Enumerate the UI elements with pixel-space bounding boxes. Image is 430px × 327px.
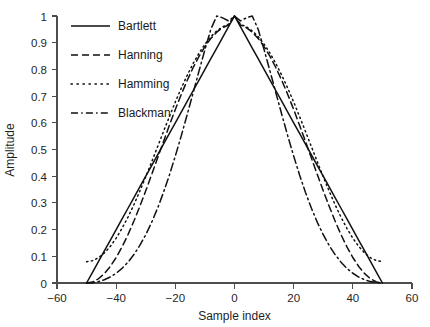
legend-label: Hamming [118, 77, 169, 91]
y-tick-label: 0.2 [31, 224, 47, 236]
x-axis-title: Sample index [198, 309, 271, 323]
y-tick-label: 1 [41, 11, 47, 23]
chart-background [0, 0, 430, 327]
y-tick-label: 0.7 [31, 91, 47, 103]
x-tick-label: −20 [166, 292, 186, 304]
x-tick-label: −60 [47, 292, 67, 304]
x-tick-label: 60 [406, 292, 419, 304]
x-tick-label: 40 [346, 292, 359, 304]
y-tick-label: 0.8 [31, 64, 47, 76]
figure-container: 1 0.9 0.8 0.7 0.6 0.5 0.4 0.3 0.2 0.1 0 … [0, 0, 430, 327]
y-tick-label: 0.5 [31, 144, 47, 156]
y-tick-label: 0.3 [31, 197, 47, 209]
legend-label: Bartlett [118, 19, 157, 33]
legend-label: Blackman [118, 106, 171, 120]
window-functions-chart: 1 0.9 0.8 0.7 0.6 0.5 0.4 0.3 0.2 0.1 0 … [0, 0, 430, 327]
x-tick-label: −40 [106, 292, 126, 304]
y-tick-label: 0.6 [31, 117, 47, 129]
legend-label: Hanning [118, 48, 163, 62]
x-tick-label: 20 [287, 292, 300, 304]
y-tick-label: 0 [41, 278, 47, 290]
y-tick-label: 0.9 [31, 37, 47, 49]
y-axis-title: Amplitude [3, 123, 17, 177]
y-tick-label: 0.4 [31, 171, 48, 183]
y-tick-label: 0.1 [31, 251, 47, 263]
x-tick-label: 0 [231, 292, 237, 304]
